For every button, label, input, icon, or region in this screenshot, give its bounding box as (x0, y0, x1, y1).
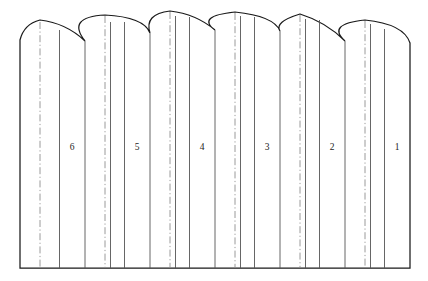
section-label-6: 6 (70, 142, 75, 152)
scalloped-panel-diagram: 6 5 4 3 2 1 (0, 0, 428, 281)
section-label-4: 4 (200, 142, 205, 152)
section-label-1: 1 (395, 142, 400, 152)
section-label-3: 3 (265, 142, 270, 152)
section-label-5: 5 (135, 142, 140, 152)
technical-drawing-canvas: 6 5 4 3 2 1 (0, 0, 428, 281)
section-label-2: 2 (330, 142, 335, 152)
